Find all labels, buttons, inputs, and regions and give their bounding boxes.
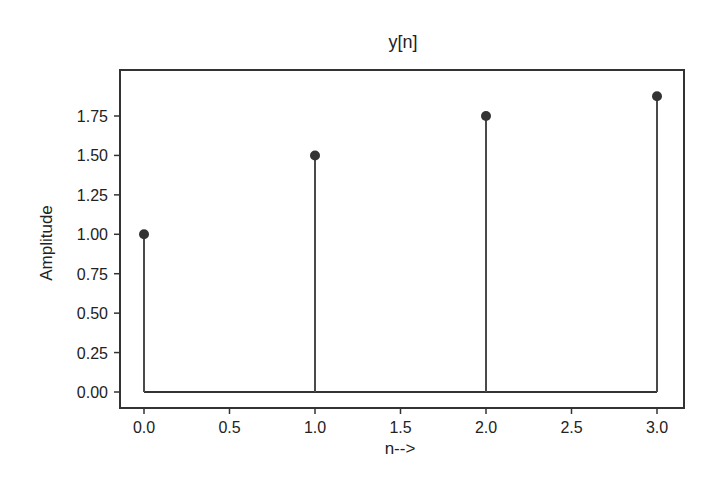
y-tick-label: 0.25 <box>77 345 108 362</box>
x-axis-label: n--> <box>385 439 416 458</box>
x-tick-label: 0.5 <box>218 419 240 436</box>
stem-marker <box>310 150 320 160</box>
plot-frame <box>120 70 684 408</box>
x-tick-label: 2.5 <box>560 419 582 436</box>
stem-marker <box>139 229 149 239</box>
y-tick-label: 0.75 <box>77 266 108 283</box>
y-tick-label: 1.75 <box>77 108 108 125</box>
plot-area: 0.000.250.500.751.001.251.501.750.00.51.… <box>77 70 684 436</box>
stem-marker <box>481 111 491 121</box>
x-tick-label: 3.0 <box>646 419 668 436</box>
y-tick-label: 0.50 <box>77 305 108 322</box>
x-tick-label: 0.0 <box>133 419 155 436</box>
x-tick-label: 2.0 <box>475 419 497 436</box>
stem-marker <box>652 91 662 101</box>
y-tick-label: 1.50 <box>77 147 108 164</box>
x-tick-label: 1.0 <box>304 419 326 436</box>
y-tick-label: 1.00 <box>77 226 108 243</box>
y-tick-label: 0.00 <box>77 384 108 401</box>
x-tick-label: 1.5 <box>389 419 411 436</box>
y-tick-label: 1.25 <box>77 187 108 204</box>
stem-chart: y[n] Amplitude n--> 0.000.250.500.751.00… <box>0 0 720 478</box>
y-axis-label: Amplitude <box>37 205 56 281</box>
chart-title: y[n] <box>388 32 417 52</box>
